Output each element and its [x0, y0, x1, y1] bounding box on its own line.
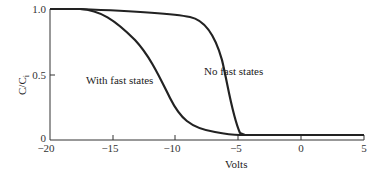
- y-tick-label: 1.0: [32, 3, 46, 15]
- x-tick-label: 5: [361, 142, 367, 154]
- x-axis-label: Volts: [225, 158, 247, 170]
- y-tick-label: 0.5: [32, 69, 46, 81]
- cv-chart: 1.0 0.5 0 −20 −15 −10 −5 0 5 Volts C/Ci …: [0, 0, 385, 174]
- annotation-with-fast-states: With fast states: [86, 74, 153, 86]
- x-tick-label: −5: [230, 142, 242, 154]
- y-axis-label: C/Ci: [16, 74, 31, 95]
- x-tick-label: −10: [163, 142, 181, 154]
- x-tick-label: 0: [298, 142, 304, 154]
- x-tick-label: −20: [37, 142, 55, 154]
- annotation-no-fast-states: No fast states: [204, 65, 263, 77]
- x-tick-label: −15: [101, 142, 119, 154]
